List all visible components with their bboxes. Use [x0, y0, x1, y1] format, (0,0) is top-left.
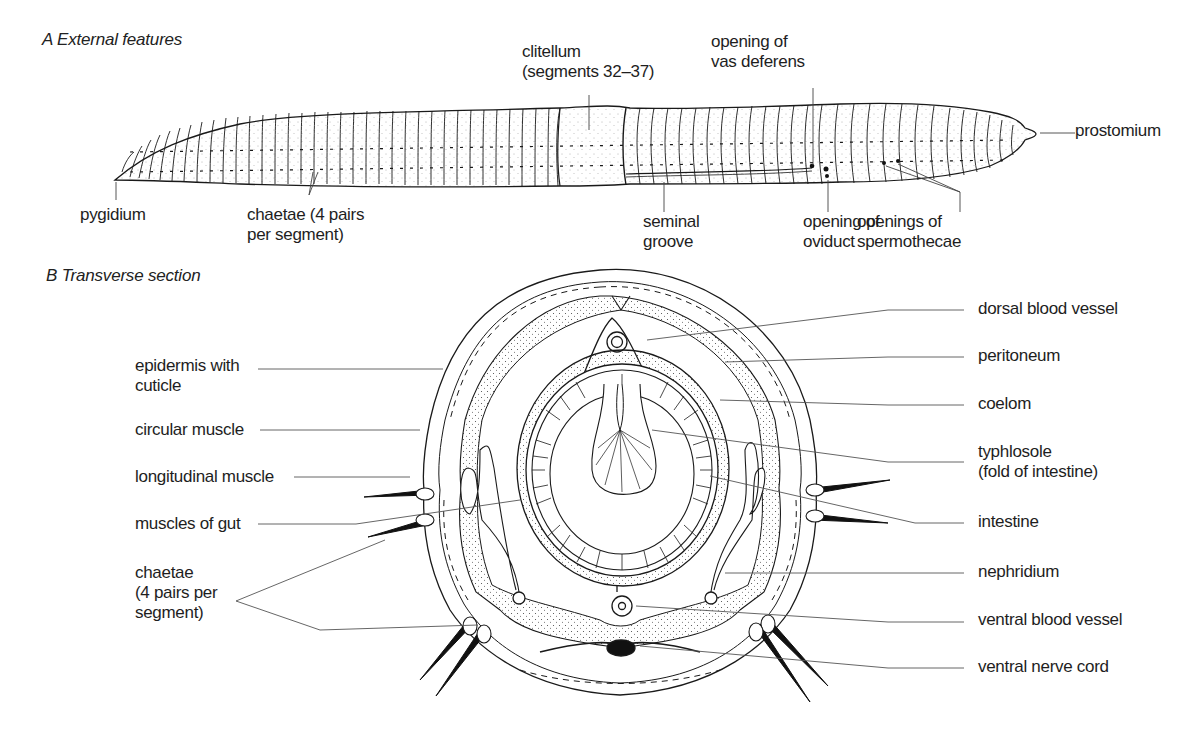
label-line: (segments 32–37)	[522, 62, 654, 82]
panel-b-title: B Transverse section	[46, 266, 200, 286]
label-muscles-of-gut: muscles of gut	[135, 514, 240, 534]
label-chaetae-section: chaetae (4 pairs per segment)	[135, 563, 217, 623]
label-longitudinal-muscle: longitudinal muscle	[135, 467, 274, 487]
label-line: coelom	[978, 394, 1031, 414]
label-line: (fold of intestine)	[978, 462, 1098, 482]
label-line: longitudinal muscle	[135, 467, 274, 487]
label-line: spermothecae	[857, 232, 961, 252]
label-line: per segment)	[247, 225, 364, 245]
label-chaetae-external: chaetae (4 pairs per segment)	[247, 205, 364, 245]
label-seminal-groove: seminal groove	[643, 212, 699, 252]
label-ventral-nerve-cord: ventral nerve cord	[978, 657, 1109, 677]
label-nephridium: nephridium	[978, 562, 1059, 582]
label-peritoneum: peritoneum	[978, 346, 1060, 366]
label-line: intestine	[978, 512, 1039, 532]
label-clitellum: clitellum (segments 32–37)	[522, 42, 654, 82]
label-line: ventral nerve cord	[978, 657, 1109, 677]
panel-a-title: A External features	[42, 30, 182, 50]
label-prostomium: prostomium	[1075, 121, 1161, 141]
label-epidermis: epidermis with cuticle	[135, 356, 239, 396]
label-line: peritoneum	[978, 346, 1060, 366]
label-ventral-blood-vessel: ventral blood vessel	[978, 610, 1122, 630]
label-line: cuticle	[135, 376, 239, 396]
label-pygidium: pygidium	[80, 205, 146, 225]
label-line: chaetae (4 pairs	[247, 205, 364, 225]
label-line: ventral blood vessel	[978, 610, 1122, 630]
label-line: segment)	[135, 603, 217, 623]
label-line: opening of	[711, 32, 805, 52]
label-line: clitellum	[522, 42, 654, 62]
label-intestine: intestine	[978, 512, 1039, 532]
label-coelom: coelom	[978, 394, 1031, 414]
label-line: chaetae	[135, 563, 217, 583]
label-line: seminal	[643, 212, 699, 232]
label-line: epidermis with	[135, 356, 239, 376]
label-line: muscles of gut	[135, 514, 240, 534]
label-vas-deferens: opening of vas deferens	[711, 32, 805, 72]
label-line: typhlosole	[978, 442, 1098, 462]
label-line: nephridium	[978, 562, 1059, 582]
label-spermothecae: openings of spermothecae	[857, 212, 961, 252]
label-line: vas deferens	[711, 52, 805, 72]
label-line: circular muscle	[135, 420, 244, 440]
label-line: groove	[643, 232, 699, 252]
label-line: openings of	[857, 212, 961, 232]
label-line: dorsal blood vessel	[978, 299, 1118, 319]
label-line: (4 pairs per	[135, 583, 217, 603]
label-typhlosole: typhlosole (fold of intestine)	[978, 442, 1098, 482]
label-dorsal-blood-vessel: dorsal blood vessel	[978, 299, 1118, 319]
label-line: pygidium	[80, 205, 146, 225]
label-circular-muscle: circular muscle	[135, 420, 244, 440]
label-line: prostomium	[1075, 121, 1161, 141]
worm-external-body	[115, 103, 1036, 187]
